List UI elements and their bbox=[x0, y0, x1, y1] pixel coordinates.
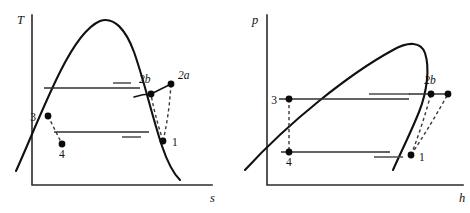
ph-state-point-2a bbox=[445, 91, 452, 98]
ts-state-point-1 bbox=[160, 138, 167, 145]
ph-state-point-1 bbox=[408, 152, 415, 159]
ts-label-point-2b: 2b bbox=[139, 73, 151, 85]
ts-process-3-to-4 bbox=[48, 116, 62, 144]
ph-label-point-1: 1 bbox=[419, 151, 425, 163]
ph-label-point-2b: 2b bbox=[424, 74, 436, 86]
ph-state-point-2b bbox=[428, 91, 435, 98]
ts-label-point-3: 3 bbox=[30, 111, 36, 123]
ts-state-point-3 bbox=[45, 113, 52, 120]
ph-state-point-4 bbox=[286, 149, 293, 156]
ts-diagram-svg: 1 2a 2b 3 4 T s bbox=[0, 0, 235, 213]
ph-label-point-3: 3 bbox=[271, 94, 277, 106]
ph-xlabel: h bbox=[459, 191, 465, 205]
ph-saturation-dome bbox=[245, 44, 427, 170]
pressure-enthalpy-diagram-panel: 1 2b 3 4 p h bbox=[235, 0, 470, 213]
ts-state-point-2a bbox=[168, 81, 175, 88]
ts-process-1-to-2a bbox=[163, 84, 171, 141]
ph-label-point-4: 4 bbox=[286, 156, 292, 168]
ts-xlabel: s bbox=[210, 191, 215, 205]
ts-label-point-1: 1 bbox=[172, 136, 178, 148]
ph-diagram-svg: 1 2b 3 4 p h bbox=[235, 0, 470, 213]
temperature-entropy-diagram-panel: 1 2a 2b 3 4 T s bbox=[0, 0, 235, 213]
ph-state-point-3 bbox=[286, 96, 293, 103]
ts-label-point-4: 4 bbox=[59, 148, 65, 160]
ph-process-1-to-2a bbox=[411, 94, 448, 155]
ts-saturation-dome bbox=[16, 20, 180, 180]
ts-state-point-4 bbox=[59, 141, 66, 148]
ph-ylabel: p bbox=[251, 13, 258, 27]
ts-ylabel: T bbox=[17, 13, 25, 27]
figure-canvas: 1 2a 2b 3 4 T s bbox=[0, 0, 470, 213]
ts-state-point-2b bbox=[148, 91, 155, 98]
ph-axes bbox=[267, 15, 463, 185]
ts-label-point-2a: 2a bbox=[178, 69, 190, 81]
